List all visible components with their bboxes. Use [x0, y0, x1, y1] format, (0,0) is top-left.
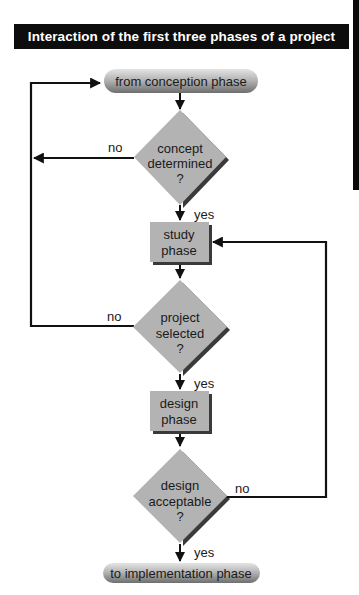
svg-text:phase: phase	[161, 412, 196, 427]
end-terminal: to implementation phase	[103, 563, 260, 583]
edge-d3-no-loop	[213, 242, 326, 497]
d1-no-label: no	[108, 140, 122, 155]
svg-text:acceptable: acceptable	[149, 494, 212, 509]
svg-text:study: study	[163, 227, 195, 242]
svg-text:determined: determined	[147, 156, 212, 171]
start-label: from conception phase	[115, 74, 247, 89]
svg-text:phase: phase	[161, 243, 196, 258]
start-terminal: from conception phase	[104, 69, 258, 93]
svg-text:?: ?	[176, 341, 183, 356]
svg-text:selected: selected	[156, 326, 204, 341]
decision-concept-determined: concept determined ?	[134, 110, 229, 208]
process-design-phase: design phase	[150, 391, 212, 434]
svg-text:project: project	[160, 310, 199, 325]
svg-text:?: ?	[176, 171, 183, 186]
d1-yes-label: yes	[194, 207, 215, 222]
process-study-phase: study phase	[150, 222, 212, 265]
decision-project-selected: project selected ?	[133, 280, 230, 376]
end-label: to implementation phase	[110, 566, 252, 581]
d2-no-label: no	[107, 309, 121, 324]
svg-text:concept: concept	[157, 141, 203, 156]
d2-yes-label: yes	[194, 376, 215, 391]
svg-text:design: design	[161, 478, 199, 493]
d3-yes-label: yes	[194, 545, 215, 560]
decision-design-acceptable: design acceptable ?	[133, 449, 230, 546]
svg-text:design: design	[160, 396, 198, 411]
edge-d2-no-loop	[31, 83, 134, 326]
flowchart: from conception phase concept determined…	[0, 0, 359, 595]
svg-text:?: ?	[176, 509, 183, 524]
d3-no-label: no	[235, 481, 249, 496]
